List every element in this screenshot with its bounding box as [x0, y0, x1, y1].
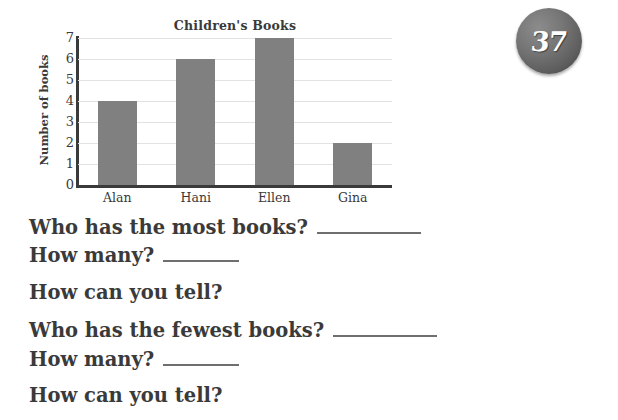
- y-tick-5: 5: [52, 73, 74, 86]
- y-tick-7: 7: [52, 31, 74, 44]
- answer-blank-2[interactable]: [163, 244, 239, 262]
- answer-blank-3[interactable]: [333, 319, 437, 337]
- question-5: How many?: [29, 348, 589, 369]
- chart-title: Children's Books: [78, 18, 392, 33]
- question-4-text: Who has the fewest books?: [29, 321, 324, 341]
- bar-chart: Children's Books Number of books 7 6 5 4…: [0, 0, 430, 210]
- x-axis-tick-labels: Alan Hani Ellen Gina: [78, 190, 392, 205]
- x-tick-hani: Hani: [157, 190, 236, 205]
- bar-series: [78, 38, 392, 185]
- plot-area: [78, 38, 392, 185]
- question-2: How many?: [29, 244, 589, 265]
- y-tick-1: 1: [52, 157, 74, 170]
- y-axis-tick-labels: 7 6 5 4 3 2 1 0: [50, 38, 74, 185]
- bar-slot-ellen: [235, 38, 314, 185]
- bar-slot-hani: [157, 38, 236, 185]
- bar-slot-alan: [78, 38, 157, 185]
- question-4: Who has the fewest books?: [29, 319, 589, 340]
- y-axis-title: Number of books: [37, 35, 51, 185]
- question-6-text: How can you tell?: [29, 386, 222, 406]
- x-tick-gina: Gina: [314, 190, 393, 205]
- bar-hani: [176, 59, 215, 185]
- page-number-text: 37: [530, 26, 569, 57]
- question-3: How can you tell?: [29, 283, 589, 303]
- question-6: How can you tell?: [29, 386, 589, 406]
- question-1-text: Who has the most books?: [29, 218, 308, 238]
- y-tick-6: 6: [52, 52, 74, 65]
- question-3-text: How can you tell?: [29, 283, 222, 303]
- answer-blank-1[interactable]: [317, 216, 421, 234]
- y-tick-2: 2: [52, 136, 74, 149]
- x-tick-ellen: Ellen: [235, 190, 314, 205]
- question-5-text: How many?: [29, 350, 154, 370]
- worksheet-questions: Who has the most books? How many? How ca…: [29, 216, 589, 406]
- y-tick-4: 4: [52, 94, 74, 107]
- x-tick-alan: Alan: [78, 190, 157, 205]
- x-axis-line: [76, 185, 392, 188]
- question-1: Who has the most books?: [29, 216, 589, 237]
- y-tick-3: 3: [52, 115, 74, 128]
- bar-slot-gina: [314, 38, 393, 185]
- answer-blank-4[interactable]: [163, 348, 239, 366]
- bar-gina: [333, 143, 372, 185]
- bar-alan: [98, 101, 137, 185]
- question-2-text: How many?: [29, 246, 154, 266]
- page-number-badge: 37: [516, 8, 582, 74]
- bar-ellen: [255, 38, 294, 185]
- y-tick-0: 0: [52, 178, 74, 191]
